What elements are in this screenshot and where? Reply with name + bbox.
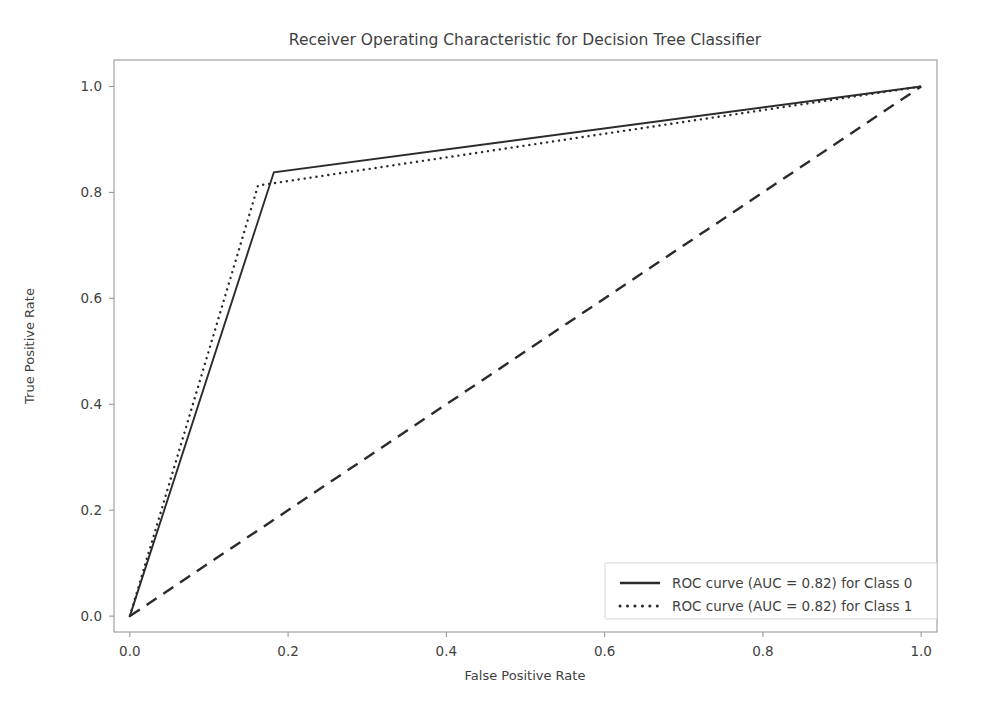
x-tick-label: 0.2 — [277, 643, 298, 659]
y-axis-label: True Positive Rate — [22, 288, 37, 405]
x-tick-label: 0.8 — [752, 643, 773, 659]
legend-label-0: ROC curve (AUC = 0.82) for Class 0 — [672, 575, 912, 591]
x-tick-label: 0.6 — [594, 643, 615, 659]
x-tick-label: 1.0 — [910, 643, 931, 659]
x-tick-label: 0.0 — [119, 643, 140, 659]
chart-legend: ROC curve (AUC = 0.82) for Class 0ROC cu… — [605, 563, 937, 619]
y-tick-label: 0.2 — [81, 502, 102, 518]
legend-label-1: ROC curve (AUC = 0.82) for Class 1 — [672, 598, 912, 614]
y-tick-label: 0.6 — [81, 290, 102, 306]
roc-figure: Receiver Operating Characteristic for De… — [0, 0, 994, 703]
roc-chart: Receiver Operating Characteristic for De… — [0, 0, 994, 703]
y-tick-label: 1.0 — [81, 78, 102, 94]
x-axis-label: False Positive Rate — [465, 668, 586, 683]
chart-title: Receiver Operating Characteristic for De… — [289, 31, 762, 49]
y-tick-label: 0.8 — [81, 184, 102, 200]
y-tick-label: 0.4 — [81, 396, 102, 412]
x-tick-label: 0.4 — [436, 643, 457, 659]
y-tick-label: 0.0 — [81, 608, 102, 624]
